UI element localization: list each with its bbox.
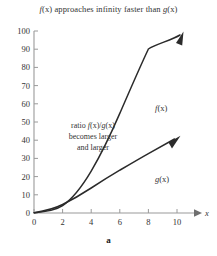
x-tick-label: 6: [118, 217, 122, 227]
curve-f-label: f(x): [155, 103, 167, 113]
x-tick-label: 10: [173, 217, 182, 227]
y-tick-label: 100: [17, 26, 30, 36]
y-tick-labels: 0 10 20 30 40 50 60 70 80 90 100: [17, 26, 30, 218]
x-axis-label: x: [204, 208, 209, 218]
ratio-annotation: ratio f(x)/g(x) becomes larger and large…: [69, 121, 118, 152]
curve-g-label: g(x): [155, 174, 169, 184]
y-tick-label: 0: [26, 208, 30, 218]
curve-f-arrowhead: [176, 32, 184, 46]
x-tick-label: 4: [89, 217, 94, 227]
y-tick-label: 50: [22, 117, 31, 127]
y-tick-label: 70: [22, 81, 31, 91]
x-tick-labels: 0 2 4 6 8 10: [32, 217, 181, 227]
y-tick-label: 60: [22, 99, 31, 109]
ratio-annotation-line3: and larger: [77, 143, 109, 152]
y-tick-marks: [34, 31, 38, 213]
plot-area: 0 10 20 30 40 50 60 70 80 90 100 0 2 4 6: [0, 0, 217, 256]
curve-g-arrowhead: [169, 136, 181, 149]
y-tick-label: 30: [22, 153, 31, 163]
y-tick-label: 20: [22, 172, 31, 182]
figure-container: f(x) approaches infinity faster than g(x…: [0, 0, 217, 256]
x-tick-label: 0: [32, 217, 36, 227]
y-tick-label: 10: [22, 190, 31, 200]
y-tick-label: 40: [22, 135, 31, 145]
figure-caption: a: [0, 235, 217, 245]
x-tick-label: 2: [60, 217, 64, 227]
x-tick-label: 8: [146, 217, 150, 227]
ratio-annotation-line1: ratio f(x)/g(x): [71, 121, 115, 130]
y-tick-label: 80: [22, 62, 31, 72]
x-axis-arrowhead: [194, 209, 202, 217]
y-tick-label: 90: [22, 44, 31, 54]
ratio-annotation-line2: becomes larger: [69, 132, 118, 141]
